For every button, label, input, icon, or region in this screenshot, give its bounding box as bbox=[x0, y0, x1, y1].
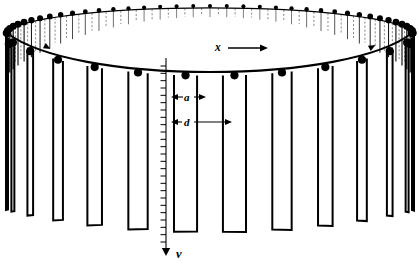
far-rim-dot bbox=[367, 14, 373, 20]
far-rim-dot bbox=[241, 4, 245, 8]
silhouette-dot bbox=[5, 40, 14, 49]
velocity-label: v bbox=[176, 247, 182, 261]
far-rim-dot bbox=[126, 6, 130, 10]
figure-canvas: v x a d bbox=[0, 0, 419, 266]
far-rim-dot bbox=[37, 15, 43, 21]
far-rim-dot bbox=[58, 12, 63, 17]
far-rim-dot bbox=[319, 8, 324, 13]
velocity-arrowhead bbox=[162, 248, 170, 256]
far-rim-dot bbox=[83, 9, 88, 14]
far-rim-dot bbox=[47, 14, 53, 20]
silhouette-dot bbox=[406, 40, 415, 49]
near-slat bbox=[6, 36, 8, 210]
near-slat bbox=[27, 50, 33, 216]
far-rim-dot bbox=[357, 12, 362, 17]
far-rim-dot bbox=[28, 17, 34, 23]
near-rim-dot bbox=[91, 63, 99, 71]
center-ruler-axis bbox=[161, 58, 171, 256]
far-side-slat-hatching bbox=[7, 7, 413, 78]
far-rim-dot bbox=[385, 17, 391, 23]
near-rim-dot bbox=[386, 47, 394, 55]
silhouette-dot bbox=[3, 29, 12, 38]
near-slat bbox=[272, 72, 291, 230]
near-slat bbox=[357, 58, 367, 221]
near-slat bbox=[87, 66, 102, 226]
far-rim-dot bbox=[97, 8, 102, 13]
near-slat bbox=[53, 58, 63, 220]
near-slat bbox=[387, 50, 393, 216]
far-rim-dot bbox=[158, 5, 162, 9]
near-rim-dot bbox=[278, 68, 286, 76]
far-rim-dot bbox=[15, 21, 22, 28]
rotation-direction-arrowheads bbox=[43, 42, 377, 51]
far-rim-dot bbox=[393, 19, 400, 26]
slat-width-label: a bbox=[184, 91, 190, 103]
near-slat bbox=[223, 75, 246, 232]
x-axis-label: x bbox=[214, 41, 221, 53]
near-slat-group bbox=[6, 36, 414, 232]
far-rim-dot bbox=[258, 5, 262, 9]
near-slat bbox=[318, 66, 333, 226]
far-rim-dot bbox=[70, 11, 75, 16]
far-rim-dot bbox=[377, 15, 383, 21]
near-rim-dot bbox=[54, 56, 62, 64]
far-rim-dot bbox=[191, 4, 195, 8]
near-rim-dot bbox=[321, 63, 329, 71]
near-rim-dot bbox=[181, 71, 189, 79]
drum-diagram-svg: v x a d bbox=[0, 0, 419, 266]
far-rim-dot bbox=[345, 11, 350, 16]
far-rim-dot bbox=[175, 4, 179, 8]
far-rim-dot bbox=[225, 4, 229, 8]
far-rim-dot bbox=[21, 19, 28, 26]
x-direction-arrow bbox=[228, 44, 268, 51]
silhouette-dot bbox=[408, 29, 417, 38]
far-rim-dot bbox=[142, 5, 146, 9]
slat-pitch-label: d bbox=[184, 116, 190, 128]
near-rim-dot bbox=[230, 71, 238, 79]
far-rim-dot bbox=[289, 6, 293, 10]
far-rim-dot bbox=[208, 4, 212, 8]
near-rim-dot bbox=[134, 68, 142, 76]
far-rim-dot bbox=[274, 5, 278, 9]
near-slat bbox=[128, 72, 147, 230]
near-rim-arc bbox=[7, 33, 412, 72]
far-rim-arc bbox=[7, 8, 412, 33]
near-slat bbox=[412, 36, 414, 211]
far-rim-dot bbox=[304, 7, 308, 11]
near-rim-dot bbox=[358, 56, 366, 64]
far-rim-dot bbox=[332, 9, 337, 14]
far-rim-dot bbox=[111, 7, 115, 11]
near-rim-dot bbox=[26, 47, 34, 55]
